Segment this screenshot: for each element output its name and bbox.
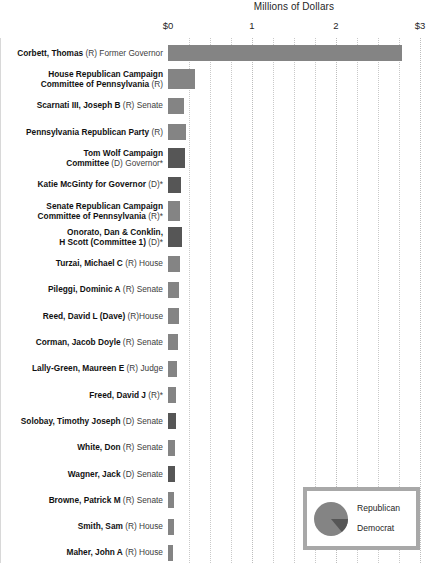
bar-row-label: White, Don (R) Senate <box>3 442 163 452</box>
candidate-detail: (R) Senate <box>121 284 163 294</box>
candidate-name: White, Don <box>77 442 120 452</box>
bar[interactable] <box>168 413 176 429</box>
bar-row-label: Smith, Sam (R) House <box>3 521 163 531</box>
bar-row-label: Onorato, Dan & Conklin,H Scott (Committe… <box>3 227 163 247</box>
legend-label-republican: Republican <box>357 503 400 513</box>
bar-row-label: Turzai, Michael C (R) House <box>3 258 163 268</box>
candidate-detail: (R) <box>149 79 163 89</box>
bar-row-label: Katie McGinty for Governor (D)* <box>3 179 163 189</box>
candidate-detail: (R) Judge <box>124 363 163 373</box>
bar[interactable] <box>168 387 176 403</box>
candidate-detail: (D)* <box>146 237 163 247</box>
bar-row[interactable]: Corbett, Thomas (R) Former Governor <box>0 40 431 66</box>
x-tick-label: $0 <box>163 20 174 31</box>
bar-row[interactable]: Pileggi, Dominic A (R) Senate <box>0 277 431 303</box>
bar[interactable] <box>168 545 173 561</box>
bar-row-label: Browne, Patrick M (R) Senate <box>3 495 163 505</box>
candidate-name: Tom Wolf Campaign <box>84 148 163 158</box>
bar[interactable] <box>168 334 178 350</box>
bar-row[interactable]: Senate Republican CampaignCommittee of P… <box>0 198 431 224</box>
bar[interactable] <box>168 361 177 377</box>
candidate-name: Senate Republican Campaign <box>46 201 163 211</box>
candidate-name: Corbett, Thomas <box>17 48 83 58</box>
bar-row[interactable]: Lally-Green, Maureen E (R) Judge <box>0 356 431 382</box>
bar-row[interactable]: Reed, David L (Dave) (R)House <box>0 303 431 329</box>
bar[interactable] <box>168 492 174 508</box>
candidate-name: Onorato, Dan & Conklin, <box>67 227 163 237</box>
bar-row-label: Lally-Green, Maureen E (R) Judge <box>3 363 163 373</box>
bar[interactable] <box>168 519 174 535</box>
bar[interactable] <box>168 466 175 482</box>
candidate-name: Committee <box>66 158 109 168</box>
bar-row[interactable]: Wagner, Jack (D) Senate <box>0 461 431 487</box>
bar-row-label: Solobay, Timothy Joseph (D) Senate <box>3 416 163 426</box>
bar-row[interactable]: Freed, David J (R)* <box>0 382 431 408</box>
bar[interactable] <box>168 201 180 221</box>
candidate-detail: (R) Former Governor <box>83 48 163 58</box>
candidate-detail: (R)House <box>125 311 163 321</box>
candidate-detail: (R) <box>149 127 163 137</box>
candidate-name: Reed, David L (Dave) <box>43 311 125 321</box>
candidate-name: House Republican Campaign <box>48 69 163 79</box>
candidate-detail: (R) Senate <box>121 100 163 110</box>
candidate-name: Pennsylvania Republican Party <box>26 127 149 137</box>
bar[interactable] <box>168 124 186 140</box>
candidate-detail: (D) Governor* <box>109 158 163 168</box>
bar-row-label: Maher, John A (R) House <box>3 547 163 557</box>
candidate-name: Katie McGinty for Governor <box>38 179 146 189</box>
bar-row-label: Scarnati III, Joseph B (R) Senate <box>3 100 163 110</box>
candidate-detail: (R)* <box>146 390 163 400</box>
x-tick-label: $3 <box>415 20 426 31</box>
bar-row[interactable]: Turzai, Michael C (R) House <box>0 250 431 276</box>
candidate-name: Smith, Sam <box>78 521 123 531</box>
bar-row-label: Corman, Jacob Doyle (R) Senate <box>3 337 163 347</box>
bar-row-label: Corbett, Thomas (R) Former Governor <box>3 48 163 58</box>
bar-row[interactable]: Scarnati III, Joseph B (R) Senate <box>0 93 431 119</box>
y-axis-line <box>0 38 1 563</box>
candidate-name: Corman, Jacob Doyle <box>36 337 121 347</box>
bar[interactable] <box>168 256 180 272</box>
candidate-detail: (R) House <box>123 521 163 531</box>
bar[interactable] <box>168 69 195 89</box>
bar[interactable] <box>168 308 179 324</box>
candidate-detail: (R) Senate <box>121 495 163 505</box>
chart-legend: Republican Democrat <box>303 487 420 550</box>
candidate-detail: (D) Senate <box>121 416 163 426</box>
candidate-name: H Scott (Committee 1) <box>59 237 146 247</box>
candidate-name: Pileggi, Dominic A <box>48 284 121 294</box>
bar-row-label: Pileggi, Dominic A (R) Senate <box>3 284 163 294</box>
bar[interactable] <box>168 45 402 61</box>
candidate-name: Committee of Pennsylvania <box>41 79 149 89</box>
bar[interactable] <box>168 98 184 114</box>
candidate-detail: (R)* <box>146 211 163 221</box>
candidate-name: Scarnati III, Joseph B <box>37 100 121 110</box>
bar[interactable] <box>168 440 175 456</box>
candidate-detail: (R) Senate <box>121 442 163 452</box>
bar-row[interactable]: White, Don (R) Senate <box>0 435 431 461</box>
bar-row[interactable]: Tom Wolf CampaignCommittee (D) Governor* <box>0 145 431 171</box>
bar-row[interactable]: Solobay, Timothy Joseph (D) Senate <box>0 408 431 434</box>
bar[interactable] <box>168 282 179 298</box>
bar[interactable] <box>168 227 182 247</box>
legend-inner: Republican Democrat <box>307 491 416 546</box>
candidate-name: Freed, David J <box>89 390 146 400</box>
bar-row[interactable]: Onorato, Dan & Conklin,H Scott (Committe… <box>0 224 431 250</box>
candidate-detail: (R) House <box>123 547 163 557</box>
candidate-name: Maher, John A <box>66 547 122 557</box>
bar[interactable] <box>168 177 181 193</box>
bar-rows: Corbett, Thomas (R) Former GovernorHouse… <box>0 38 431 563</box>
bar-row[interactable]: Corman, Jacob Doyle (R) Senate <box>0 329 431 355</box>
bar-row-label: Senate Republican CampaignCommittee of P… <box>3 201 163 221</box>
bar-row[interactable]: Katie McGinty for Governor (D)* <box>0 172 431 198</box>
x-tick-label: 1 <box>249 20 254 31</box>
legend-label-democrat: Democrat <box>357 523 394 533</box>
bar-row-label: Freed, David J (R)* <box>3 390 163 400</box>
candidate-name: Committee of Pennsylvania <box>38 211 146 221</box>
pie-chart-icon <box>313 501 349 537</box>
bar-row[interactable]: House Republican CampaignCommittee of Pe… <box>0 66 431 92</box>
candidate-name: Turzai, Michael C <box>56 258 123 268</box>
bar[interactable] <box>168 148 185 168</box>
bar-row-label: Tom Wolf CampaignCommittee (D) Governor* <box>3 148 163 168</box>
candidate-name: Browne, Patrick M <box>49 495 121 505</box>
bar-row[interactable]: Pennsylvania Republican Party (R) <box>0 119 431 145</box>
